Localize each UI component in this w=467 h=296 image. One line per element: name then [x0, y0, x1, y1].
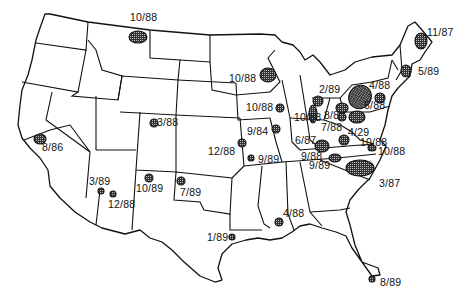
site-label-montana: 10/88 [130, 12, 157, 23]
site-label-kansas: 12/88 [208, 146, 235, 157]
site-marker-arizona-2[interactable] [110, 191, 116, 197]
site-label-ohio-ne: 8/8 [324, 110, 339, 121]
site-marker-montana[interactable] [129, 31, 147, 43]
site-label-virginia-coast: 10/88 [378, 146, 405, 157]
site-label-texas: 1/89 [207, 232, 228, 243]
site-label-new-mexico: 10/89 [136, 183, 163, 194]
site-marker-south-carolina[interactable] [346, 160, 374, 176]
site-marker-new-hampshire[interactable] [401, 65, 411, 77]
site-label-missouri: 9/89 [258, 154, 279, 165]
site-label-louisiana: 4/88 [283, 208, 304, 219]
site-marker-pennsylvania[interactable] [349, 111, 365, 123]
site-label-south-carolina: 3/87 [379, 178, 400, 189]
site-label-new-york: 4/88 [369, 80, 390, 91]
site-marker-oklahoma[interactable] [177, 177, 185, 185]
site-marker-wisconsin[interactable] [260, 68, 276, 82]
site-label-colorado: 3/88 [157, 117, 178, 128]
site-label-tennessee: 9/89 [309, 160, 330, 171]
site-label-wisconsin: 10/88 [229, 73, 256, 84]
site-marker-tennessee[interactable] [329, 154, 341, 162]
site-marker-missouri[interactable] [248, 155, 254, 161]
site-label-iowa: 10/88 [246, 102, 273, 113]
site-label-oklahoma: 7/89 [180, 187, 201, 198]
site-marker-iowa[interactable] [276, 104, 284, 112]
site-label-ohio: 7/88 [321, 122, 342, 133]
site-label-new-hampshire: 5/89 [418, 66, 439, 77]
site-label-maine: 11/87 [427, 27, 454, 38]
site-label-florida: 8/89 [380, 277, 401, 288]
site-label-indiana: 10/88 [294, 112, 321, 123]
site-label-illinois: 9/84 [247, 126, 268, 137]
site-label-massachusetts: 5/88 [364, 100, 385, 111]
site-label-california: 8/86 [42, 142, 63, 153]
site-marker-texas[interactable] [229, 234, 235, 240]
site-label-arizona-2: 12/88 [108, 199, 135, 210]
site-marker-louisiana[interactable] [275, 218, 283, 226]
site-marker-illinois[interactable] [272, 125, 280, 133]
site-marker-maine[interactable] [415, 33, 427, 49]
site-marker-arizona-1[interactable] [98, 188, 104, 194]
site-marker-florida[interactable] [369, 276, 375, 282]
site-label-michigan: 2/89 [319, 84, 340, 95]
site-marker-michigan[interactable] [313, 96, 323, 106]
site-marker-new-mexico[interactable] [145, 174, 153, 182]
site-label-arizona-1: 3/89 [89, 176, 110, 187]
site-marker-kansas[interactable] [238, 139, 246, 147]
site-label-kentucky: 6/87 [295, 135, 316, 146]
